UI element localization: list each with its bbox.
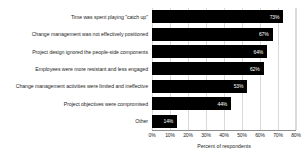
category-label: Project objectives were compromised — [64, 101, 148, 107]
gridline — [296, 8, 297, 130]
plot-area: 73%67%64%62%53%44%14% — [152, 8, 296, 130]
x-tick-label: 80% — [291, 132, 301, 138]
bar[interactable]: 73% — [152, 10, 283, 23]
category-label: Time was spent playing "catch up" — [71, 14, 148, 20]
bar-row: 62% — [152, 60, 295, 77]
category-label: Project design ignored the people-side c… — [32, 49, 148, 55]
bar-row: 64% — [152, 43, 295, 60]
category-label: Change management was not effectively po… — [32, 31, 148, 37]
bar-row: 14% — [152, 113, 295, 130]
category-label: Employees were more resistant and less e… — [35, 66, 148, 72]
x-tick-label: 30% — [201, 132, 211, 138]
x-axis-title: Percent of respondents — [152, 143, 296, 149]
bar-value-label: 44% — [217, 101, 227, 106]
bar-value-label: 62% — [250, 66, 260, 71]
bar-row: 44% — [152, 95, 295, 112]
bar[interactable]: 14% — [152, 115, 177, 128]
x-tick-label: 70% — [273, 132, 283, 138]
bar-chart: 73%67%64%62%53%44%14% Time was spent pla… — [0, 0, 305, 155]
bar[interactable]: 44% — [152, 97, 231, 110]
x-tick-label: 20% — [183, 132, 193, 138]
bar-row: 67% — [152, 25, 295, 42]
bar-value-label: 14% — [163, 119, 173, 124]
bar[interactable]: 53% — [152, 80, 247, 93]
bar-row: 53% — [152, 78, 295, 95]
bar-row: 73% — [152, 8, 295, 25]
bar-value-label: 64% — [253, 49, 263, 54]
x-tick-label: 60% — [255, 132, 265, 138]
bar-value-label: 73% — [270, 14, 280, 19]
bar[interactable]: 62% — [152, 62, 264, 75]
bar-series: 73%67%64%62%53%44%14% — [152, 8, 295, 130]
x-tick-label: 0% — [148, 132, 155, 138]
bar[interactable]: 64% — [152, 45, 267, 58]
bar-value-label: 67% — [259, 32, 269, 37]
bar[interactable]: 67% — [152, 28, 273, 41]
category-label: Change management activities were limite… — [16, 83, 148, 89]
x-tick-label: 10% — [165, 132, 175, 138]
category-label: Other — [135, 118, 148, 124]
bar-value-label: 53% — [234, 84, 244, 89]
x-tick-label: 50% — [237, 132, 247, 138]
x-tick-label: 40% — [219, 132, 229, 138]
x-axis-line — [152, 130, 296, 131]
